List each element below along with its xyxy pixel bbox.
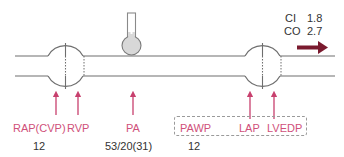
pa-value: 53/20(31): [105, 140, 152, 152]
rap-value: 12: [33, 140, 45, 152]
rvp-label: RVP: [67, 122, 89, 134]
pulmonary-artery-tube: [83, 56, 245, 76]
pawp-label: PAWP: [180, 122, 211, 134]
rap-label: RAP(CVP): [13, 122, 66, 134]
pawp-value: 12: [188, 140, 200, 152]
pa-label: PA: [126, 122, 140, 134]
left-heart-chamber: [245, 43, 281, 89]
hemodynamic-diagram: CI 1.8 CO 2.7 RAP(CVP) RVP PA PAWP LAP L…: [0, 0, 344, 157]
co-value: 2.7: [307, 25, 322, 37]
vena-cava-tube: [15, 56, 48, 76]
aorta-tube: [280, 56, 335, 76]
right-arrow-icon: [297, 41, 328, 54]
lap-label: LAP: [239, 122, 260, 134]
ci-label: CI: [285, 12, 296, 24]
right-heart-chamber: [48, 43, 84, 89]
manometer-icon: [122, 13, 141, 55]
co-label: CO: [284, 25, 301, 37]
ci-value: 1.8: [307, 12, 322, 24]
lvedp-label: LVEDP: [267, 122, 302, 134]
